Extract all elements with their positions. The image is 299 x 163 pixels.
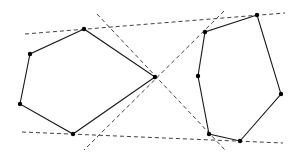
left-polygon-vertex-1 bbox=[28, 52, 32, 56]
left-polygon bbox=[20, 29, 155, 134]
left-polygon-vertex-3 bbox=[71, 132, 75, 136]
right-polygon-vertex-2 bbox=[196, 74, 200, 78]
left-polygon-vertex-2 bbox=[18, 102, 22, 106]
left-polygon-vertex-0 bbox=[82, 27, 86, 31]
right-polygon bbox=[198, 15, 281, 141]
inner-tangent-descending bbox=[97, 14, 225, 150]
right-polygon-vertex-1 bbox=[203, 30, 207, 34]
vertices bbox=[18, 13, 283, 143]
right-polygon-vertex-4 bbox=[238, 139, 242, 143]
convex-polygons-tangent-diagram bbox=[0, 0, 299, 163]
left-polygon-vertex-4 bbox=[153, 75, 157, 79]
tangent-lines bbox=[22, 11, 285, 150]
right-polygon-vertex-3 bbox=[207, 132, 211, 136]
right-polygon-vertex-5 bbox=[279, 92, 283, 96]
outer-top-tangent bbox=[25, 13, 285, 34]
right-polygon-vertex-0 bbox=[255, 13, 259, 17]
polygons bbox=[20, 15, 281, 141]
outer-bottom-tangent bbox=[22, 132, 283, 143]
